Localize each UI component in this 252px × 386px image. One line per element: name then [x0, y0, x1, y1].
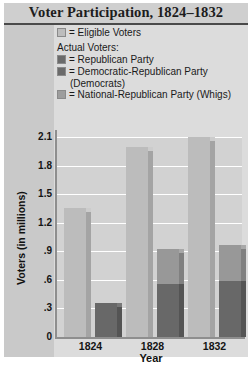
bar-eligible-1828 — [126, 147, 148, 337]
bar-side — [210, 137, 215, 337]
bar-democratic-republican-1832 — [219, 281, 241, 337]
legend-item-national-republican: = National-Republican Party (Whigs) — [57, 89, 249, 100]
plot-area — [56, 137, 242, 337]
legend-label-eligible: = Eligible Voters — [69, 27, 141, 38]
y-axis-title: Voters (in millions) — [15, 183, 27, 293]
bar-side — [179, 284, 184, 337]
bar-national-republican-1828 — [157, 249, 179, 283]
legend-label-national-republican: = National-Republican Party (Whigs) — [69, 89, 231, 100]
legend-label-democratic-republican-second: (Democrats) — [57, 78, 249, 89]
y-axis-tick-label: .3 — [8, 302, 52, 313]
legend-swatch-republican-icon — [57, 55, 66, 64]
legend-swatch-national-republican-icon — [57, 90, 66, 99]
bar-eligible-1832 — [188, 137, 210, 337]
y-axis-tick-label: 2.1 — [8, 131, 52, 142]
chart-legend: = Eligible Voters Actual Voters: = Repub… — [57, 27, 249, 101]
bar-side — [241, 281, 246, 337]
bar-eligible-1824 — [64, 208, 86, 337]
x-axis-tick-label: 1828 — [123, 340, 183, 352]
bar-democratic-republican-1828 — [157, 284, 179, 337]
bar-face — [219, 245, 241, 281]
bar-face — [157, 249, 179, 283]
bar-face — [64, 208, 86, 337]
bar-national-republican-1832 — [219, 245, 241, 281]
bar-face — [188, 137, 210, 337]
bar-side — [241, 245, 246, 281]
legend-swatch-democratic-republican-icon — [57, 67, 66, 76]
bar-face — [157, 284, 179, 337]
y-axis-line — [55, 130, 57, 339]
legend-label-democratic-republican: = Democratic-Republican Party — [69, 66, 208, 77]
legend-actual-header: Actual Voters: — [57, 42, 249, 53]
bar-side — [117, 303, 122, 337]
bar-republican-1824 — [95, 303, 117, 337]
bar-face — [126, 147, 148, 337]
bar-face — [95, 303, 117, 337]
x-axis-title: Year — [56, 352, 246, 364]
x-axis-line — [55, 337, 245, 339]
bar-top-face — [86, 208, 91, 212]
legend-item-eligible: = Eligible Voters — [57, 27, 249, 38]
legend-label-republican: = Republican Party — [69, 54, 154, 65]
bar-side — [179, 249, 184, 283]
legend-item-republican: = Republican Party — [57, 54, 249, 65]
bar-top-face — [241, 245, 246, 249]
x-axis-tick-label: 1824 — [61, 340, 121, 352]
legend-item-democratic-republican: = Democratic-Republican Party — [57, 66, 249, 77]
y-axis-tick-labels: 0.3.6.91.21.51.82.1 — [4, 0, 52, 386]
bar-top-face — [179, 249, 184, 253]
x-axis-tick-label: 1832 — [185, 340, 245, 352]
bar-top-face — [210, 137, 215, 141]
bar-top-face — [117, 303, 122, 307]
y-axis-tick-label: 1.8 — [8, 160, 52, 171]
bar-side — [148, 147, 153, 337]
chart-figure: Voter Participation, 1824–1832 = Eligibl… — [0, 0, 252, 386]
bar-side — [86, 208, 91, 337]
y-axis-tick-label: 0 — [8, 331, 52, 342]
bar-top-face — [148, 147, 153, 151]
legend-swatch-eligible-icon — [57, 28, 66, 37]
bar-face — [219, 281, 241, 337]
